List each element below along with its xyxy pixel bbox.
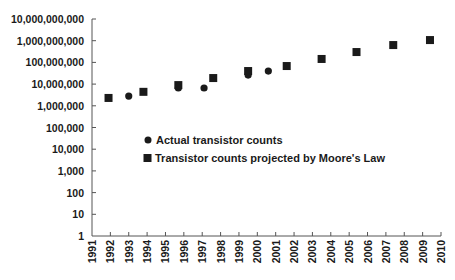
data-point-actual — [200, 84, 207, 91]
legend: Actual transistor counts Transistor coun… — [144, 134, 386, 164]
data-point-projected — [283, 62, 291, 70]
data-point-projected — [318, 55, 326, 63]
y-tick-label: 10,000 — [52, 143, 84, 155]
x-tick-label: 2002 — [288, 240, 300, 264]
legend-label-projected: Transistor counts projected by Moore's L… — [155, 152, 385, 164]
x-tick-label: 1991 — [86, 240, 98, 264]
y-tick-label: 1,000,000 — [37, 100, 84, 112]
x-tick-label: 1999 — [233, 240, 245, 264]
x-axis: 1991199219931994199519961997199819992000… — [86, 232, 447, 263]
x-tick-label: 2000 — [251, 240, 263, 264]
x-tick-label: 1995 — [159, 240, 171, 264]
data-point-projected — [389, 41, 397, 49]
y-tick-label: 100,000 — [46, 122, 84, 134]
data-point-actual — [125, 92, 132, 99]
moores-law-chart: 10,000,000,0001,000,000,000100,000,00010… — [0, 0, 455, 280]
data-point-projected — [209, 74, 217, 82]
data-point-projected — [244, 67, 252, 75]
plot-area — [105, 36, 434, 102]
y-tick-label: 1,000 — [58, 165, 84, 177]
x-tick-label: 2003 — [306, 240, 318, 264]
x-tick-label: 2008 — [398, 240, 410, 264]
data-point-projected — [174, 81, 182, 89]
y-axis: 10,000,000,0001,000,000,000100,000,00010… — [11, 13, 96, 242]
x-tick-label: 2010 — [435, 240, 447, 264]
data-point-projected — [105, 94, 113, 102]
x-tick-label: 1994 — [141, 240, 153, 264]
x-tick-label: 2009 — [417, 240, 429, 264]
x-tick-label: 2007 — [380, 240, 392, 264]
x-tick-label: 1996 — [178, 240, 190, 264]
x-tick-label: 1998 — [215, 240, 227, 264]
x-tick-label: 1993 — [123, 240, 135, 264]
data-point-actual — [265, 67, 272, 74]
y-tick-label: 100,000,000 — [26, 56, 85, 68]
x-tick-label: 2006 — [362, 240, 374, 264]
legend-circle-icon — [145, 137, 152, 144]
y-tick-label: 10,000,000 — [31, 78, 84, 90]
x-tick-label: 2004 — [325, 240, 337, 264]
legend-square-icon — [144, 154, 152, 162]
data-point-projected — [353, 48, 361, 56]
x-tick-label: 1997 — [196, 240, 208, 264]
y-tick-label: 1 — [78, 230, 84, 242]
data-point-projected — [139, 88, 147, 96]
y-tick-label: 1,000,000,000 — [17, 35, 84, 47]
x-tick-label: 2005 — [343, 240, 355, 264]
y-tick-label: 10,000,000,000 — [11, 13, 84, 25]
x-tick-label: 2001 — [270, 240, 282, 264]
y-tick-label: 100 — [66, 187, 84, 199]
x-tick-label: 1992 — [104, 240, 116, 264]
legend-label-actual: Actual transistor counts — [156, 134, 283, 146]
y-tick-label: 10 — [72, 208, 84, 220]
data-point-projected — [426, 36, 434, 44]
